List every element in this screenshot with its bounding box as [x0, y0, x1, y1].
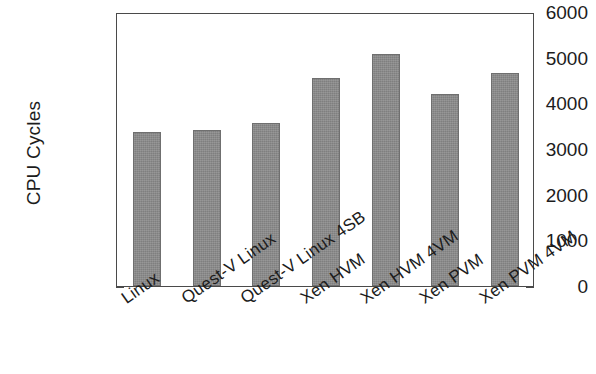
- bar: [491, 73, 519, 286]
- bar: [252, 123, 280, 286]
- y-axis-title: CPU Cycles: [23, 73, 45, 233]
- bar: [372, 54, 400, 286]
- bar: [193, 130, 221, 286]
- bar: [133, 132, 161, 286]
- bar-chart-figure: CPU Cycles 0100020003000400050006000 Lin…: [0, 0, 596, 374]
